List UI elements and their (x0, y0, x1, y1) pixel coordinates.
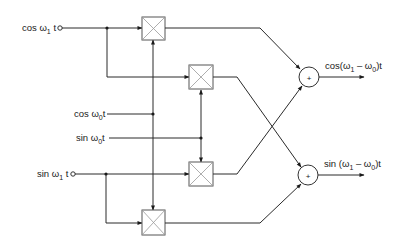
lower-summer: + (298, 165, 318, 185)
input-port-sin-w1 (71, 172, 75, 176)
output-label-sin-diff: sin (ω1 – ω0)t (324, 158, 381, 171)
plus-icon: + (307, 74, 312, 83)
wire-cos-w1 (62, 28, 189, 77)
wire-mult3-to-upper-summer (213, 86, 302, 174)
wire-cos-w0 (107, 40, 153, 210)
output-label-cos-diff: cos(ω1 – ω0)t (325, 60, 382, 73)
wire-sin-w1 (75, 174, 189, 223)
wire-mult2-to-lower-summer (213, 77, 301, 167)
junction-dot (151, 112, 154, 115)
input-label-sin-w0: sin ω0t (76, 132, 105, 145)
quadrature-mixer-diagram: cos ω1 t sin ω1 t cos ω0t sin ω0t (0, 0, 404, 249)
input-label-sin-w1: sin ω1 t (37, 168, 69, 181)
junction-dot (105, 26, 108, 29)
plus-icon: + (306, 172, 311, 181)
junction-dot (104, 172, 107, 175)
input-label-cos-w1: cos ω1 t (22, 22, 56, 35)
wire-sin-w0 (109, 90, 201, 162)
input-label-cos-w0: cos ω0t (74, 108, 106, 121)
multiplier-block-1 (142, 17, 165, 40)
junction-dot (199, 136, 202, 139)
wire-mult1-to-upper-summer (165, 28, 300, 69)
wire-mult4-to-lower-summer (165, 184, 301, 223)
multiplier-block-2 (189, 65, 213, 89)
input-port-cos-w1 (58, 26, 62, 30)
upper-summer: + (299, 67, 319, 87)
multiplier-block-3 (189, 162, 213, 186)
multiplier-block-4 (142, 210, 165, 235)
